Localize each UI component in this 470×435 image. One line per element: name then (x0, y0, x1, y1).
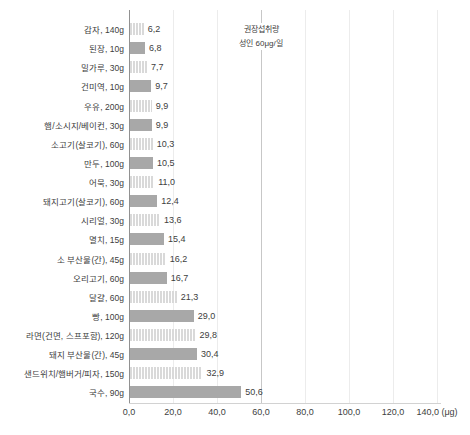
x-tick-label: 60,0 (252, 407, 270, 417)
x-gridline (305, 10, 306, 403)
bar-solid (130, 386, 241, 398)
value-label: 6,2 (148, 24, 161, 34)
x-tick-label: 140,0 (μg) (416, 407, 457, 417)
value-label: 16,2 (170, 254, 188, 264)
value-label: 13,6 (164, 215, 182, 225)
bar-hatched (130, 23, 144, 35)
bar-solid (130, 42, 145, 54)
bar-chart: 권장섭취량 성인 60μg/일 0,020,040,060,080,0100,0… (0, 0, 470, 435)
x-axis-line (129, 403, 441, 404)
bar-solid (130, 80, 151, 92)
category-label: 소고기(살코기), 60g (0, 138, 124, 150)
value-label: 15,4 (168, 234, 186, 244)
annotation-line2: 성인 60μg/일 (239, 37, 282, 51)
category-label: 어묵, 30g (0, 176, 124, 188)
bar-solid (130, 348, 197, 360)
category-label: 만두, 100g (0, 157, 124, 169)
bar-hatched (130, 253, 166, 265)
category-label: 밀가루, 30g (0, 61, 124, 73)
bar-solid (130, 233, 164, 245)
bar-solid (130, 310, 194, 322)
x-tick-label: 0,0 (123, 407, 136, 417)
x-tick-label: 80,0 (296, 407, 314, 417)
x-tick-label: 100,0 (338, 407, 361, 417)
value-label: 29,0 (198, 311, 216, 321)
category-label: 오리고기, 60g (0, 272, 124, 284)
value-label: 9,7 (155, 81, 168, 91)
value-label: 29,8 (200, 330, 218, 340)
bar-hatched (130, 367, 202, 379)
reference-annotation: 권장섭취량 성인 60μg/일 (236, 23, 285, 50)
bar-hatched (130, 138, 153, 150)
value-label: 10,5 (157, 158, 175, 168)
category-label: 시리얼, 30g (0, 214, 124, 226)
category-label: 달걀, 60g (0, 291, 124, 303)
value-label: 6,8 (149, 43, 162, 53)
category-label: 국수, 90g (0, 386, 124, 398)
x-tick-label: 40,0 (208, 407, 226, 417)
bar-solid (130, 272, 167, 284)
value-label: 30,4 (201, 349, 219, 359)
category-label: 돼지 부산물(간), 45g (0, 348, 124, 360)
value-label: 9,9 (156, 101, 169, 111)
category-label: 건미역, 10g (0, 80, 124, 92)
bar-solid (130, 195, 157, 207)
value-label: 12,4 (161, 196, 179, 206)
category-label: 샌드위치/햄버거/피자, 150g (0, 367, 124, 379)
annotation-line1: 권장섭취량 (239, 23, 282, 37)
category-label: 햄/소시지/베이컨, 30g (0, 119, 124, 131)
category-label: 소 부산물(간), 45g (0, 253, 124, 265)
bar-hatched (130, 100, 152, 112)
category-label: 돼지고기(살코기), 60g (0, 195, 124, 207)
value-label: 32,9 (206, 368, 224, 378)
bar-hatched (130, 291, 177, 303)
bar-solid (130, 119, 152, 131)
category-label: 빵, 100g (0, 310, 124, 322)
category-label: 멸치, 15g (0, 233, 124, 245)
x-tick-label: 120,0 (382, 407, 405, 417)
category-label: 감자, 140g (0, 23, 124, 35)
value-label: 21,3 (181, 292, 199, 302)
value-label: 7,7 (151, 62, 164, 72)
category-label: 된장, 10g (0, 42, 124, 54)
value-label: 10,3 (157, 139, 175, 149)
bar-hatched (130, 61, 147, 73)
value-label: 50,6 (245, 387, 263, 397)
bar-solid (130, 157, 153, 169)
bar-hatched (130, 214, 160, 226)
value-label: 9,9 (156, 120, 169, 130)
value-label: 11,0 (158, 177, 175, 187)
category-label: 우유, 200g (0, 100, 124, 112)
category-label: 라면(건면, 스프포함), 120g (0, 329, 124, 341)
x-tick-label: 20,0 (164, 407, 182, 417)
x-gridline (217, 10, 218, 403)
x-gridline (173, 10, 174, 403)
bar-hatched (130, 176, 154, 188)
x-gridline (393, 10, 394, 403)
x-gridline (349, 10, 350, 403)
value-label: 16,7 (171, 273, 189, 283)
bar-hatched (130, 329, 196, 341)
reference-line (261, 10, 262, 403)
x-gridline (437, 10, 438, 403)
